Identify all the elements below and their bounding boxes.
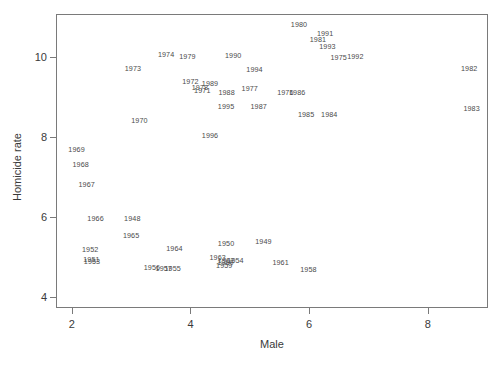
x-axis-tick-label: 2 <box>69 318 75 330</box>
y-axis-label: Homicide rate <box>11 87 23 247</box>
x-axis-tick-mark <box>72 307 73 314</box>
data-point-label: 1987 <box>250 103 266 111</box>
data-point-label: 1948 <box>124 215 140 223</box>
y-axis-tick-mark <box>50 297 57 298</box>
data-point-label: 1964 <box>166 245 182 253</box>
y-axis-tick-mark <box>50 217 57 218</box>
data-point-label: 1974 <box>158 51 174 59</box>
y-axis-tick-mark <box>50 137 57 138</box>
data-point-label: 1980 <box>291 21 307 29</box>
data-point-label: 1992 <box>347 53 363 61</box>
x-axis-tick-label: 4 <box>187 318 193 330</box>
data-point-label: 1957 <box>156 265 172 273</box>
x-axis-tick-mark <box>309 307 310 314</box>
data-point-label: 1982 <box>461 65 477 73</box>
data-point-label: 1994 <box>246 66 262 74</box>
y-axis-tick-label: 4 <box>41 291 47 303</box>
data-point-label: 1985 <box>298 111 314 119</box>
data-point-label: 1977 <box>242 85 258 93</box>
plot-frame: 1948194919501951195219531954195519561957… <box>56 14 488 308</box>
data-point-label: 1963 <box>210 254 226 262</box>
data-point-label: 1952 <box>82 246 98 254</box>
data-point-label: 1967 <box>78 181 94 189</box>
data-point-label: 1993 <box>319 43 335 51</box>
data-point-label: 1961 <box>272 259 288 267</box>
x-axis-tick-mark <box>190 307 191 314</box>
data-point-label: 1990 <box>225 52 241 60</box>
data-point-label: 1979 <box>179 53 195 61</box>
data-point-label: 1966 <box>87 215 103 223</box>
data-point-label: 1968 <box>73 161 89 169</box>
data-point-label: 1995 <box>218 103 234 111</box>
data-point-label: 1989 <box>202 80 218 88</box>
data-point-label: 1991 <box>317 30 333 38</box>
data-point-label: 1958 <box>300 266 316 274</box>
x-axis-tick-mark <box>428 307 429 314</box>
data-point-label: 1984 <box>321 111 337 119</box>
x-axis-tick-label: 6 <box>306 318 312 330</box>
data-point-label: 1975 <box>331 54 347 62</box>
data-point-label: 1950 <box>218 240 234 248</box>
data-point-label: 1976 <box>277 89 293 97</box>
data-point-label: 1969 <box>68 146 84 154</box>
scatter-plot-figure: 1948194919501951195219531954195519561957… <box>0 0 503 366</box>
data-point-label: 1988 <box>218 89 234 97</box>
y-axis-tick-mark <box>50 57 57 58</box>
x-axis-tick-label: 8 <box>425 318 431 330</box>
y-axis-tick-label: 10 <box>35 51 47 63</box>
y-axis-tick-label: 6 <box>41 211 47 223</box>
plot-data-area: 1948194919501951195219531954195519561957… <box>57 15 487 307</box>
data-point-label: 1970 <box>131 117 147 125</box>
x-axis-label: Male <box>56 338 488 350</box>
data-point-label: 1949 <box>255 238 271 246</box>
data-point-label: 1983 <box>463 105 479 113</box>
data-point-label: 1965 <box>123 232 139 240</box>
y-axis-tick-label: 8 <box>41 131 47 143</box>
data-point-label: 1973 <box>125 65 141 73</box>
data-point-label: 1996 <box>202 132 218 140</box>
data-point-label: 1953 <box>84 258 100 266</box>
